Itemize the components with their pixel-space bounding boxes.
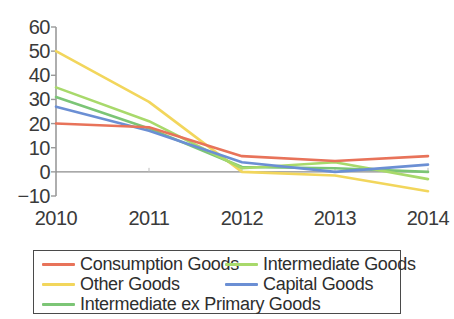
chart-canvas	[0, 0, 435, 240]
plot-area: 6050403020100−10 20102011201220132014	[0, 0, 435, 240]
legend-swatch-icon	[225, 283, 258, 286]
legend-swatch-icon	[42, 263, 75, 266]
legend-entries: Consumption GoodsOther GoodsIntermediate…	[34, 251, 400, 313]
legend-label: Capital Goods	[263, 275, 373, 293]
legend-item-consumption-goods[interactable]: Consumption Goods	[42, 254, 239, 274]
legend-swatch-icon	[42, 303, 75, 306]
y-axis-label-minus10: −10	[2, 186, 50, 206]
legend-swatch-icon	[42, 283, 75, 286]
legend-swatch-icon	[225, 263, 258, 266]
y-axis-label-40: 40	[2, 65, 50, 85]
y-axis-label-20: 20	[2, 114, 50, 134]
y-axis-label-60: 60	[2, 17, 50, 37]
x-axis-label-2012: 2012	[209, 208, 275, 228]
chart-legend: Consumption GoodsOther GoodsIntermediate…	[33, 250, 401, 314]
x-axis-label-2011: 2011	[116, 208, 182, 228]
y-axis-label-0: 0	[2, 162, 50, 182]
x-axis-label-2013: 2013	[302, 208, 368, 228]
legend-item-intermediate-ex-primary-goods[interactable]: Intermediate ex Primary Goods	[42, 294, 320, 314]
legend-label: Intermediate ex Primary Goods	[80, 295, 320, 313]
series-line-consumption-goods	[56, 124, 428, 161]
legend-label: Consumption Goods	[80, 255, 239, 273]
legend-label: Intermediate Goods	[263, 255, 416, 273]
y-axis-label-10: 10	[2, 138, 50, 158]
y-axis-label-30: 30	[2, 89, 50, 109]
x-axis-label-2014: 2014	[395, 208, 454, 228]
legend-item-intermediate-goods[interactable]: Intermediate Goods	[225, 254, 416, 274]
series-line-intermediate-goods	[56, 87, 428, 179]
legend-item-other-goods[interactable]: Other Goods	[42, 274, 180, 294]
legend-item-capital-goods[interactable]: Capital Goods	[225, 274, 373, 294]
x-axis-label-2010: 2010	[23, 208, 89, 228]
legend-label: Other Goods	[80, 275, 180, 293]
y-axis-label-50: 50	[2, 41, 50, 61]
